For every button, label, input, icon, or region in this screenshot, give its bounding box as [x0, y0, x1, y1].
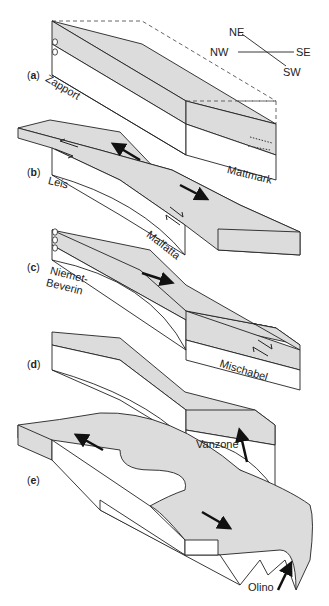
compass-label-nw: NW: [210, 46, 228, 58]
panel-label-e: (e): [27, 474, 40, 486]
panel-label-c: (c): [27, 261, 40, 273]
compass-label-sw: SW: [283, 66, 301, 78]
unit-label-olino: Olino: [248, 581, 274, 593]
nappe-evolution-diagram: [0, 0, 329, 606]
panel-label-d: (d): [27, 358, 40, 370]
compass-label-se: SE: [296, 46, 311, 58]
panel-label-b: (b): [27, 166, 40, 178]
compass: [238, 34, 294, 66]
compass-label-ne: NE: [229, 26, 244, 38]
unit-label-vanzone: Vanzone: [196, 438, 239, 450]
panel-label-a: (a): [27, 69, 40, 81]
